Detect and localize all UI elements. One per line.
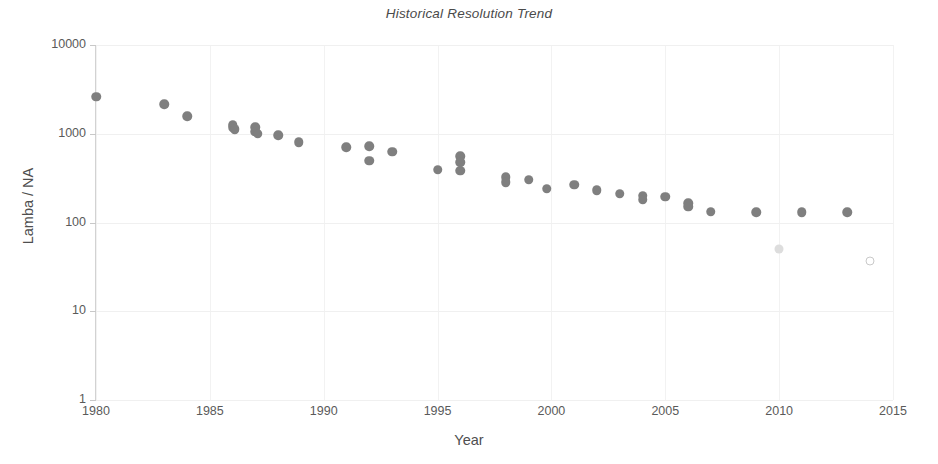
data-point	[365, 156, 375, 166]
data-point	[273, 131, 283, 141]
x-axis-tick-label: 2000	[538, 404, 566, 418]
scatter-chart: Historical Resolution Trend 110100100010…	[0, 0, 938, 464]
x-axis-title: Year	[0, 432, 938, 448]
y-axis-tick-mark	[90, 134, 96, 135]
data-point	[569, 180, 579, 190]
gridline-horizontal	[96, 45, 893, 46]
data-point	[752, 207, 762, 217]
data-point	[160, 99, 170, 109]
data-point	[542, 184, 552, 194]
gridline-horizontal	[96, 311, 893, 312]
data-point	[592, 186, 602, 196]
data-point	[253, 129, 263, 139]
data-point	[524, 175, 534, 185]
gridline-vertical	[893, 45, 894, 400]
data-point	[91, 92, 101, 102]
data-point	[638, 195, 648, 205]
data-point	[706, 207, 716, 217]
y-axis-tick-mark	[90, 400, 96, 401]
y-axis-tick-mark	[90, 311, 96, 312]
data-point	[501, 177, 511, 187]
gridline-horizontal	[96, 400, 893, 401]
y-axis-tick-label: 1	[24, 392, 86, 406]
data-point	[775, 245, 784, 254]
data-point	[230, 125, 240, 135]
x-axis-tick-label: 1995	[424, 404, 452, 418]
data-point	[683, 202, 693, 212]
x-axis-tick-label: 1980	[82, 404, 110, 418]
plot-area	[96, 45, 893, 400]
y-axis-tick-mark	[90, 223, 96, 224]
x-axis-tick-label: 2015	[879, 404, 907, 418]
data-point	[456, 166, 466, 176]
data-point	[182, 111, 192, 121]
x-axis-tick-label: 1985	[196, 404, 224, 418]
data-point	[661, 192, 671, 202]
data-point	[433, 165, 443, 175]
y-axis-tick-mark	[90, 45, 96, 46]
data-point	[615, 189, 625, 199]
data-point	[365, 142, 375, 152]
y-axis-tick-label: 10000	[24, 37, 86, 51]
gridline-horizontal	[96, 223, 893, 224]
data-point	[866, 256, 875, 265]
data-point	[797, 207, 807, 217]
gridline-horizontal	[96, 134, 893, 135]
x-axis-tick-label: 2010	[765, 404, 793, 418]
chart-title: Historical Resolution Trend	[0, 6, 938, 21]
data-point	[387, 147, 397, 157]
data-point	[294, 138, 304, 148]
x-axis-tick-label: 1990	[310, 404, 338, 418]
x-axis-tick-label: 2005	[651, 404, 679, 418]
y-axis-title: Lamba / NA	[20, 96, 36, 316]
data-point	[843, 207, 853, 217]
data-point	[342, 143, 352, 153]
